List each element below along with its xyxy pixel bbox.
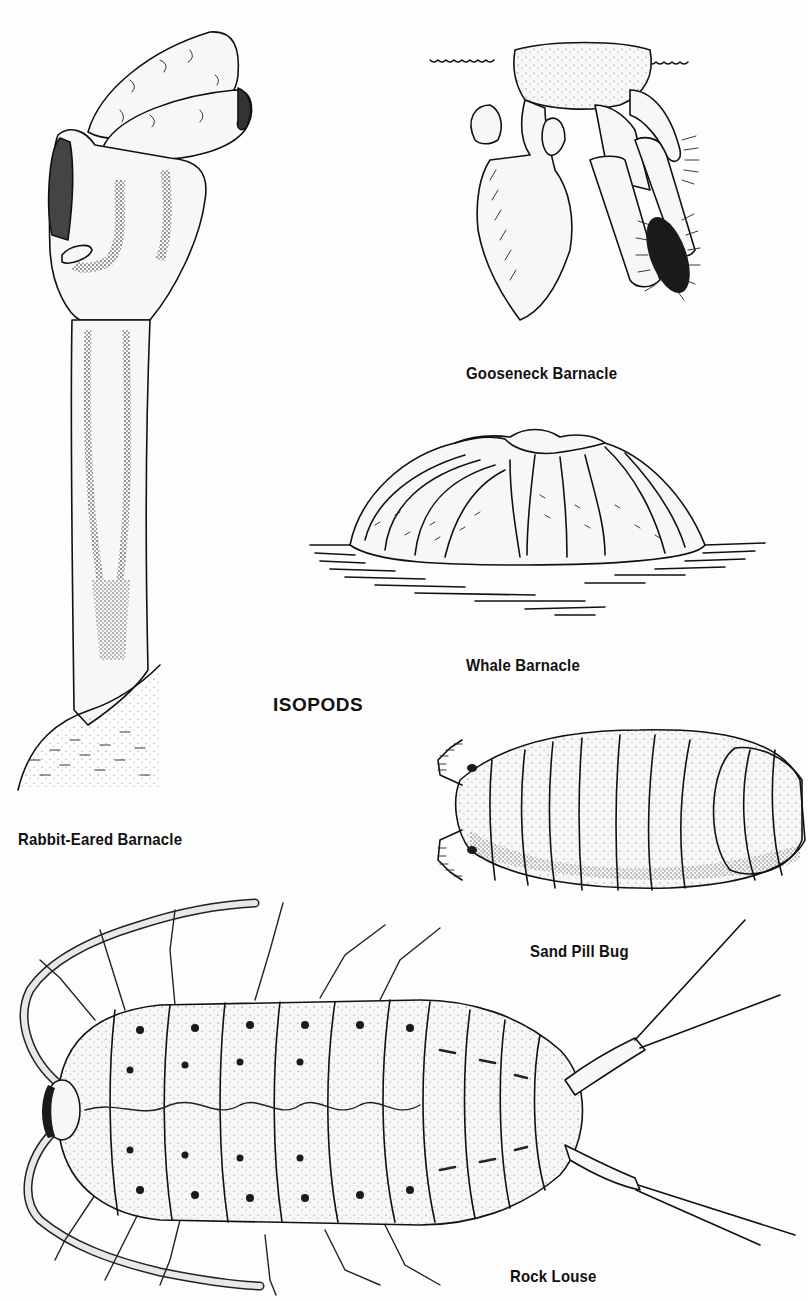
whale-barnacle-caption: Whale Barnacle bbox=[466, 656, 580, 676]
gooseneck-barnacle-caption: Gooseneck Barnacle bbox=[466, 364, 617, 384]
gooseneck-barnacle-illustration bbox=[420, 30, 720, 330]
rabbit-eared-barnacle-illustration bbox=[0, 20, 280, 800]
rock-louse-illustration bbox=[0, 900, 808, 1300]
whale-barnacle-illustration bbox=[305, 415, 775, 625]
rock-louse-caption: Rock Louse bbox=[510, 1267, 597, 1287]
rabbit-eared-barnacle-caption: Rabbit-Eared Barnacle bbox=[18, 830, 182, 850]
isopods-section-heading: ISOPODS bbox=[273, 694, 363, 716]
illustration-page: Rabbit-Eared Barnacle Gooseneck Barnacle… bbox=[0, 0, 808, 1301]
sand-pill-bug-illustration bbox=[410, 720, 808, 900]
